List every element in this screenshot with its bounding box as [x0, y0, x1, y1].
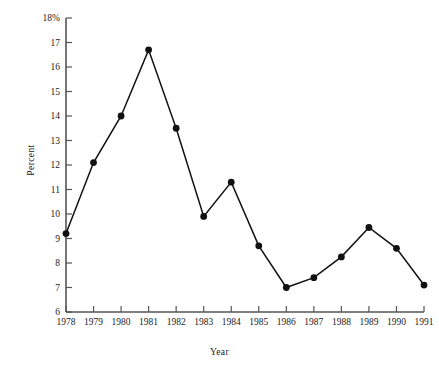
x-axis-tick-label: 1987 — [304, 317, 323, 327]
y-axis-tick-label: 12 — [51, 160, 61, 170]
data-point — [366, 224, 373, 231]
data-point — [228, 179, 235, 186]
y-axis-tick-marks — [66, 18, 72, 312]
x-axis-tick-label: 1982 — [167, 317, 186, 327]
chart-svg — [66, 18, 424, 312]
data-point — [393, 245, 400, 252]
y-axis-tick-label: 14 — [51, 111, 61, 121]
x-axis-tick-marks — [66, 306, 424, 312]
y-axis-tick-label: 13 — [51, 136, 61, 146]
x-axis-tick-label: 1986 — [277, 317, 296, 327]
data-point — [173, 125, 180, 132]
x-axis-tick-label: 1989 — [359, 317, 378, 327]
data-point — [200, 213, 207, 220]
data-point — [255, 242, 262, 249]
x-axis-tick-label: 1981 — [139, 317, 158, 327]
x-axis-tick-label: 1985 — [249, 317, 268, 327]
data-point — [63, 230, 70, 237]
x-axis-tick-label: 1990 — [387, 317, 406, 327]
x-axis-title: Year — [0, 347, 439, 357]
y-axis-tick-label: 11 — [51, 185, 60, 195]
data-point — [145, 46, 152, 53]
y-axis-tick-label: 9 — [55, 234, 60, 244]
y-axis-tick-label: 10 — [51, 209, 61, 219]
x-axis-tick-label: 1983 — [194, 317, 213, 327]
y-axis-tick-label: 6 — [55, 307, 60, 317]
plot-area: 18%17161514131211109876 1978197919801981… — [66, 18, 424, 312]
y-axis-tick-label: 15 — [51, 87, 61, 97]
data-point-markers — [63, 46, 428, 290]
data-point — [310, 274, 317, 281]
data-point — [90, 159, 97, 166]
data-line — [66, 50, 424, 288]
x-axis-tick-label: 1979 — [84, 317, 103, 327]
y-axis-tick-label: 17 — [51, 38, 61, 48]
data-point — [338, 253, 345, 260]
y-axis-title: Percent — [26, 115, 36, 205]
x-axis-tick-label: 1978 — [57, 317, 76, 327]
x-axis-tick-label: 1980 — [112, 317, 131, 327]
y-axis-tick-label: 16 — [51, 62, 61, 72]
x-axis-tick-label: 1991 — [415, 317, 434, 327]
x-axis-tick-label: 1984 — [222, 317, 241, 327]
chart-figure: Percent Year 18%17161514131211109876 197… — [0, 0, 439, 373]
x-axis-tick-label: 1988 — [332, 317, 351, 327]
data-point — [283, 284, 290, 291]
data-point — [118, 113, 125, 120]
y-axis-tick-label: 18% — [43, 13, 60, 23]
y-axis-tick-label: 7 — [55, 283, 60, 293]
y-axis-tick-label: 8 — [55, 258, 60, 268]
data-point — [421, 282, 428, 289]
